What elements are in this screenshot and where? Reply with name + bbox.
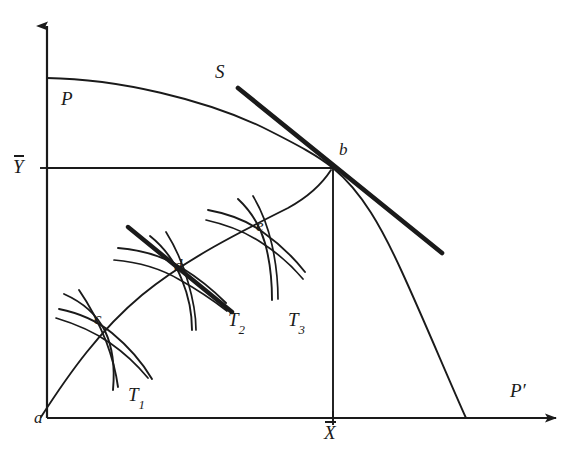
- x-bar-text: X: [324, 422, 336, 442]
- isoquant-label-t3-subscript: 3: [299, 322, 305, 337]
- isoquant-curve-e-firm1: [238, 199, 272, 300]
- price-line-label-s: S: [215, 62, 225, 81]
- y-axis-tick-label-ybar: Y: [13, 156, 24, 176]
- isoquant-label-t1-base: T: [128, 384, 139, 405]
- isoquant-label-t2: T2: [228, 310, 245, 334]
- price-line-s: [238, 88, 442, 253]
- ppf-label-p: P: [61, 89, 73, 108]
- y-bar-text: Y: [13, 156, 24, 176]
- figure-canvas: [0, 0, 587, 465]
- isoquant-label-t3: T3: [288, 310, 305, 334]
- isoquant-curve-e-firm4: [206, 220, 303, 279]
- point-label-d: d: [174, 257, 183, 274]
- isoquant-pair-at-d: [114, 227, 232, 330]
- point-label-e: e: [256, 217, 264, 234]
- isoquant-pair-at-e: [206, 196, 305, 300]
- x-axis-tick-label-xbar: X: [324, 422, 336, 442]
- isoquant-label-t2-subscript: 2: [239, 322, 245, 337]
- ppf-contract-curve-figure: a P P′ S b c d e T1 T2 T3 Y X: [0, 0, 587, 465]
- point-label-b: b: [339, 141, 348, 158]
- origin-label-a: a: [34, 409, 43, 426]
- isoquant-curve-c-firm2: [59, 309, 152, 379]
- point-label-c: c: [94, 310, 102, 327]
- isoquant-label-t3-base: T: [288, 309, 299, 330]
- isoquant-label-t2-base: T: [228, 309, 239, 330]
- isoquant-label-t1-subscript: 1: [139, 397, 145, 412]
- production-possibility-frontier-curve: [47, 78, 466, 418]
- isoquant-label-t1: T1: [128, 385, 145, 409]
- ppf-label-p-prime: P′: [510, 381, 526, 400]
